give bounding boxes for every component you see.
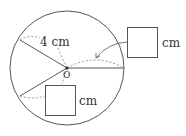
answer-box-diameter[interactable] <box>127 27 158 58</box>
center-label: O <box>63 70 70 80</box>
answer-box-radius[interactable] <box>45 85 76 116</box>
unit-label-diameter: cm <box>162 36 180 50</box>
unit-label-radius: cm <box>79 94 97 108</box>
dashed-brace-lower <box>20 96 45 98</box>
dashed-brace-radius-left <box>20 36 40 40</box>
radius-label: 4 cm <box>40 35 70 49</box>
dashed-brace-diameter <box>67 60 124 68</box>
circle-diagram <box>0 0 186 136</box>
